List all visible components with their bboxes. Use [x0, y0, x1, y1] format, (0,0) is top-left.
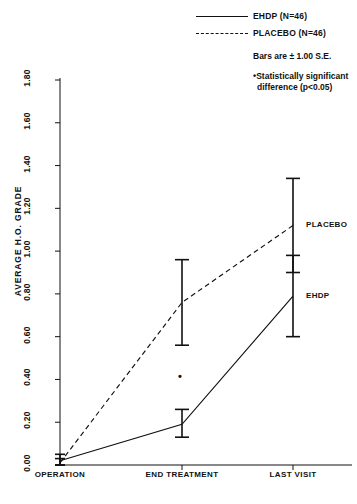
x-tick-label: LAST VISIT: [233, 470, 353, 479]
series-line-ehdp: [60, 296, 293, 461]
error-bar-placebo-2: [286, 178, 300, 272]
y-tick-label: 1.20: [22, 191, 32, 221]
inline-series-label-ehdp: EHDP: [306, 291, 329, 300]
x-tick-label: END TREATMENT: [122, 470, 242, 479]
y-tick-label: 1.40: [22, 149, 32, 179]
chart-figure: EHDP (N=46) PLACEBO (N=46) Bars are ± 1.…: [0, 0, 357, 504]
y-tick-label: 0.80: [22, 277, 32, 307]
y-tick-label: 0.60: [22, 320, 32, 350]
inline-series-label-placebo: PLACEBO: [306, 220, 347, 229]
x-tick-label: OPERATION: [0, 470, 120, 479]
significance-asterisk-marker: •: [178, 370, 182, 382]
series-line-placebo: [60, 225, 293, 462]
error-bar-ehdp-1: [175, 409, 189, 437]
y-tick-label: 1.80: [22, 63, 32, 93]
y-tick-label: 1.60: [22, 106, 32, 136]
y-tick-label: 0.20: [22, 405, 32, 435]
plot-canvas: •: [0, 0, 357, 504]
error-bar-placebo-1: [175, 260, 189, 346]
y-tick-label: 1.00: [22, 234, 32, 264]
y-tick-label: 0.40: [22, 362, 32, 392]
